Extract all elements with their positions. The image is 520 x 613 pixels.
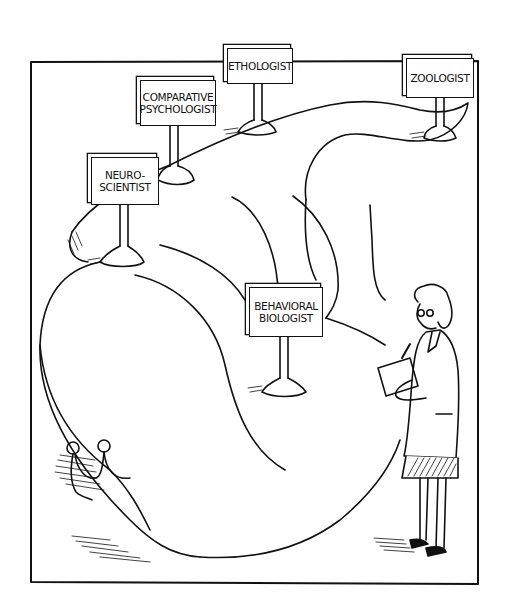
sign-text-line: PSYCHOLOGIST — [140, 103, 217, 115]
pen — [402, 344, 410, 358]
sign-text-line: COMPARATIVE — [143, 91, 214, 103]
shell-spiral-6 — [160, 245, 245, 300]
shell-spiral-5 — [370, 205, 385, 300]
post-comp-psych — [170, 124, 178, 166]
shell-spiral-1 — [232, 197, 278, 290]
sign-neuroscientist: NEURO- SCIENTIST — [91, 157, 159, 205]
shoe-right — [426, 547, 446, 556]
base-comp-psych — [158, 166, 194, 185]
glasses-right — [427, 310, 433, 316]
eye-stalk-right — [104, 452, 130, 478]
sign-behavioral-biologist: BEHAVIORAL BIOLOGIST — [249, 287, 323, 337]
base-neuro — [100, 246, 144, 267]
shoe-left — [410, 539, 428, 548]
coat-lapel — [428, 332, 440, 352]
snail-body-left — [40, 262, 200, 557]
post-neuro — [120, 205, 128, 246]
glasses-left — [418, 310, 424, 316]
sign-zoologist: ZOOLOGIST — [406, 58, 474, 98]
base-behav — [262, 378, 306, 397]
legs — [420, 478, 446, 548]
sign-text-line: ZOOLOGIST — [410, 72, 469, 84]
sign-text-line: NEURO- — [105, 169, 145, 181]
snail-head — [40, 345, 150, 530]
post-ethologist — [254, 82, 262, 120]
shell-spiral-3 — [326, 318, 385, 345]
skirt — [402, 456, 458, 478]
base-zoologist — [424, 126, 456, 141]
snail-eye-left — [67, 442, 79, 454]
scientist-figure — [374, 284, 459, 556]
sign-text-line: SCIENTIST — [99, 181, 150, 193]
sign-text-line: BEHAVIORAL — [254, 300, 318, 312]
sign-comparative-psychologist: COMPARATIVE PSYCHOLOGIST — [140, 80, 216, 126]
sign-ethologist: ETHOLOGIST — [227, 48, 293, 84]
sign-text-line: ETHOLOGIST — [228, 60, 292, 72]
snail-body-bottom — [200, 440, 400, 558]
sign-text-line: BIOLOGIST — [259, 312, 313, 324]
ground-shade-snail — [72, 536, 150, 562]
ground-shade-scientist — [374, 538, 414, 552]
post-behav — [280, 336, 288, 378]
snail-eye-right — [98, 440, 110, 452]
